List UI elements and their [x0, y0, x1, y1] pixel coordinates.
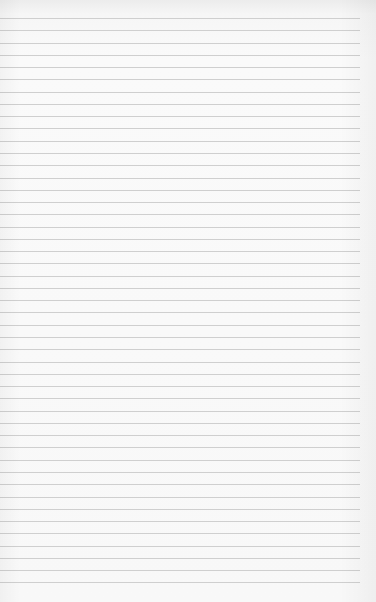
ruled-line	[0, 263, 360, 264]
ruled-line	[0, 153, 360, 154]
ruled-line	[0, 460, 360, 461]
ruled-line	[0, 447, 360, 448]
ruled-line	[0, 398, 360, 399]
ruled-line	[0, 521, 360, 522]
ruled-line	[0, 165, 360, 166]
ruled-line	[0, 18, 360, 19]
ruled-line	[0, 92, 360, 93]
ruled-line	[0, 214, 360, 215]
ruled-line	[0, 55, 360, 56]
ruled-line	[0, 251, 360, 252]
ruled-line	[0, 288, 360, 289]
ruled-line	[0, 582, 360, 583]
ruled-line	[0, 558, 360, 559]
ruled-line	[0, 276, 360, 277]
ruled-line	[0, 423, 360, 424]
ruled-line	[0, 509, 360, 510]
ruled-line	[0, 116, 360, 117]
ruled-line	[0, 30, 360, 31]
ruled-line	[0, 178, 360, 179]
ruled-line	[0, 484, 360, 485]
ruled-line	[0, 533, 360, 534]
ruled-line	[0, 128, 360, 129]
ruled-line	[0, 239, 360, 240]
ruled-line	[0, 546, 360, 547]
ruled-line	[0, 202, 360, 203]
ruled-line	[0, 435, 360, 436]
ruled-line	[0, 497, 360, 498]
ruled-line	[0, 325, 360, 326]
ruled-line	[0, 227, 360, 228]
ruled-line	[0, 104, 360, 105]
ruled-line	[0, 374, 360, 375]
ruled-line	[0, 472, 360, 473]
ruled-line	[0, 362, 360, 363]
ruled-line	[0, 349, 360, 350]
ruled-paper	[0, 0, 376, 602]
ruled-line	[0, 67, 360, 68]
ruled-line	[0, 300, 360, 301]
ruled-line	[0, 570, 360, 571]
ruled-line	[0, 79, 360, 80]
ruled-line	[0, 312, 360, 313]
ruled-line	[0, 141, 360, 142]
ruled-line	[0, 337, 360, 338]
ruled-line	[0, 386, 360, 387]
ruled-line	[0, 411, 360, 412]
ruled-line	[0, 43, 360, 44]
ruled-line	[0, 190, 360, 191]
